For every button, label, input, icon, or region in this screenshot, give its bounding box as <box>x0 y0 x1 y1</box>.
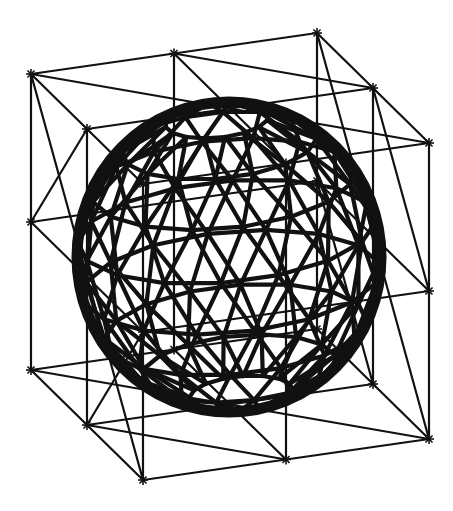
lattice-edge <box>174 33 317 54</box>
sphere-strut <box>328 202 329 261</box>
node-asterisk-icon <box>169 345 179 355</box>
sphere-strut <box>146 227 193 231</box>
node-asterisk-icon <box>312 28 322 38</box>
sphere-strut <box>266 230 319 234</box>
lattice-edge <box>286 439 429 460</box>
sphere-strut <box>215 174 253 179</box>
sphere-strut <box>221 275 279 283</box>
node-asterisk-icon <box>26 69 36 79</box>
sphere-strut <box>146 245 153 304</box>
node-asterisk-icon <box>138 179 148 189</box>
node-asterisk-icon <box>82 420 92 430</box>
lattice-diagonal <box>373 236 429 439</box>
lattice-diagonal <box>31 129 87 222</box>
sphere-in-lattice-diagram <box>0 0 453 511</box>
lattice-edge <box>143 460 286 481</box>
node-asterisk-icon <box>424 286 434 296</box>
lattice-edge <box>31 54 174 75</box>
sphere-strut <box>262 334 297 337</box>
node-asterisk-icon <box>424 434 434 444</box>
sphere-strut <box>278 217 291 276</box>
sphere-strut <box>225 133 244 137</box>
node-asterisk-icon <box>312 324 322 334</box>
node-asterisk-icon <box>169 49 179 59</box>
sphere-strut <box>186 137 204 138</box>
sphere-strut <box>91 222 110 263</box>
sphere-strut <box>205 137 225 138</box>
node-asterisk-icon <box>82 124 92 134</box>
sphere-strut <box>144 356 160 369</box>
sphere-strut <box>192 227 243 231</box>
node-asterisk-icon <box>138 475 148 485</box>
figure <box>0 0 453 511</box>
node-asterisk-icon <box>312 176 322 186</box>
lattice-back-edges <box>31 33 317 370</box>
node-asterisk-icon <box>26 217 36 227</box>
node-asterisk-icon <box>281 159 291 169</box>
node-asterisk-icon <box>368 83 378 93</box>
sphere-strut <box>175 180 233 188</box>
sphere-strut <box>290 234 319 285</box>
sphere-strut <box>230 375 254 400</box>
node-asterisk-icon <box>424 138 434 148</box>
node-asterisk-icon <box>368 379 378 389</box>
sphere-strut <box>146 292 190 305</box>
sphere-strut <box>290 285 331 292</box>
node-asterisk-icon <box>26 365 36 375</box>
node-asterisk-icon <box>281 455 291 465</box>
node-asterisk-icon <box>138 327 148 337</box>
